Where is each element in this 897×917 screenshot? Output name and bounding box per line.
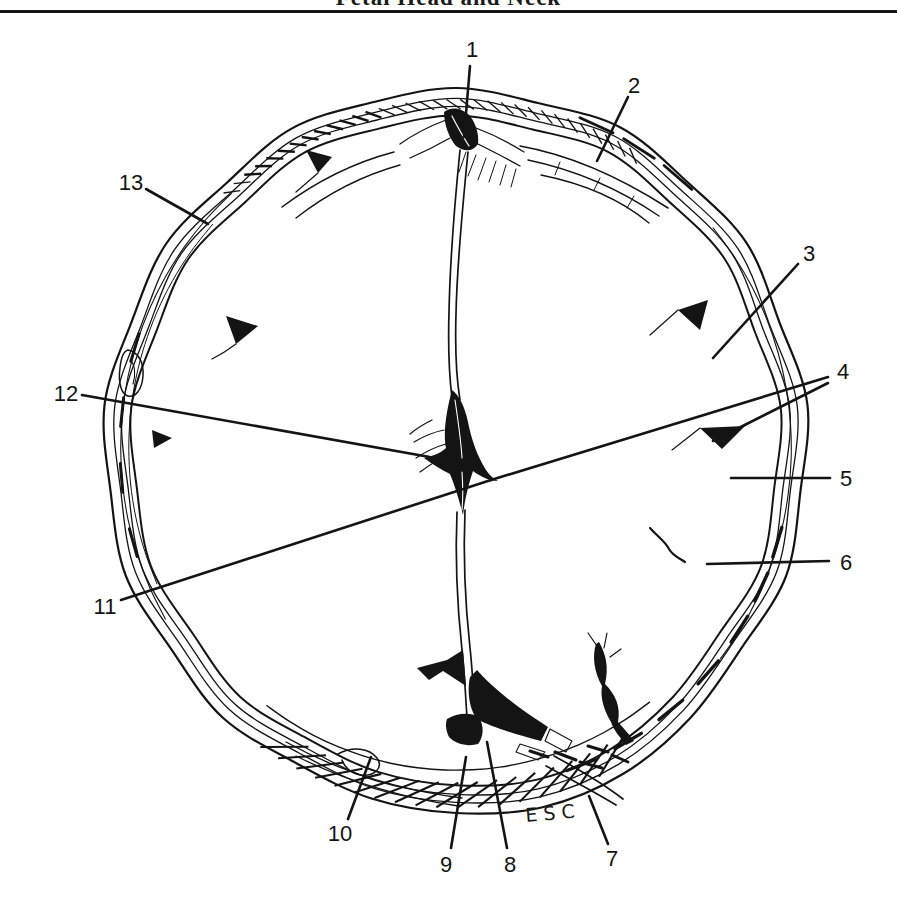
leader-line-7 <box>589 796 608 844</box>
occipital-wall-details-drawing <box>286 742 623 806</box>
figure-label-6: 6 <box>840 550 852 575</box>
figure-label-7: 7 <box>606 846 618 871</box>
leader-line-3 <box>713 264 798 358</box>
figure-label-13: 13 <box>119 170 143 195</box>
leader-line-6 <box>707 561 829 564</box>
leader-line-11 <box>121 480 491 600</box>
figure-label-12: 12 <box>54 381 78 406</box>
leader-line-12 <box>82 395 452 461</box>
figure-label-5: 5 <box>840 466 852 491</box>
dura-flap-left-drawing <box>282 150 400 218</box>
figure-label-2: 2 <box>628 73 640 98</box>
falx-midline-drawing <box>410 150 498 720</box>
figure-label-11: 11 <box>94 594 117 619</box>
figure-label-10: 10 <box>328 821 352 846</box>
figure-label-1: 1 <box>466 37 478 62</box>
figure-label-4: 4 <box>837 359 849 384</box>
anatomical-figure: 12345678910111213 ESC <box>0 0 897 917</box>
leader-line-4-2 <box>713 383 828 441</box>
figure-label-3: 3 <box>803 241 815 266</box>
figure-label-8: 8 <box>504 852 516 877</box>
figure-label-9: 9 <box>440 852 452 877</box>
sulcus-mark-drawing <box>650 528 685 562</box>
tentorium-sinus-drawing <box>417 633 634 768</box>
artist-signature: ESC <box>524 799 581 826</box>
